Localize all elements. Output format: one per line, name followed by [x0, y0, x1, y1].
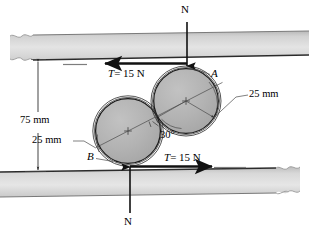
angle-label: 30° — [160, 130, 175, 141]
normal-force-top-label: N — [181, 4, 189, 15]
tension-top-arrow — [63, 64, 187, 65]
normal-force-bottom-label: N — [124, 216, 132, 227]
top-plate — [10, 31, 309, 60]
tension-bottom-label: T= 15 N — [164, 152, 201, 163]
tension-top-label: T= 15 N — [108, 68, 145, 79]
tension-bottom-value: = 15 N — [170, 151, 201, 163]
tension-bottom-arrow — [130, 167, 246, 168]
point-a-label: A — [211, 68, 218, 79]
radius-right-label: 25 mm — [249, 89, 278, 100]
tension-top-value: = 15 N — [114, 67, 145, 79]
radius-left-label: 25 mm — [32, 135, 61, 146]
physics-diagram: N N T= 15 N T= 15 N 75 mm 25 mm 25 mm 30… — [0, 0, 309, 235]
gap-dimension-label: 75 mm — [20, 115, 49, 126]
point-b-label: B — [87, 151, 94, 162]
